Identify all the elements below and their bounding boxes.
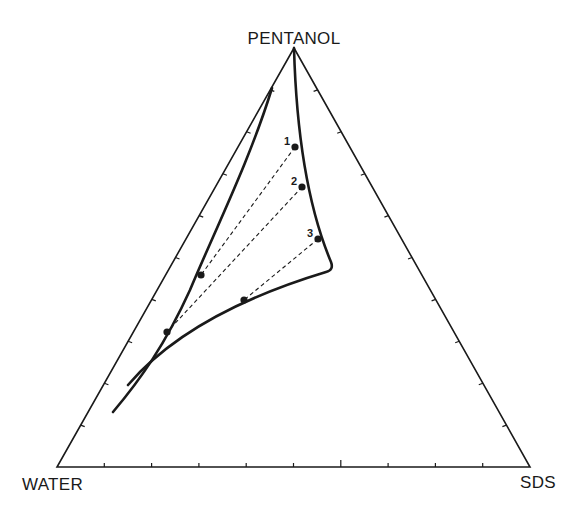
phase-boundaries	[113, 48, 332, 412]
tick-mark	[432, 299, 436, 301]
tie-line-dashes	[244, 239, 318, 300]
data-point	[314, 235, 321, 242]
tick-mark	[337, 132, 341, 134]
tick-mark	[455, 341, 459, 343]
data-point	[291, 143, 298, 150]
tie-line-dashes	[201, 147, 295, 275]
data-point	[240, 296, 247, 303]
triangle-frame	[57, 48, 530, 467]
tie-lines: 123	[163, 135, 321, 336]
single-phase-boundary-left	[113, 88, 272, 412]
tick-mark	[384, 216, 388, 218]
vertex-label-pentanol: PENTANOL	[248, 29, 341, 48]
triangle-outline	[57, 48, 530, 467]
data-point	[298, 183, 305, 190]
tick-mark	[314, 90, 318, 92]
tie-line-2: 2	[163, 175, 305, 336]
vertex-label-sds: SDS	[520, 473, 556, 492]
data-point	[163, 328, 170, 335]
tick-mark	[152, 299, 156, 301]
data-point	[197, 271, 204, 278]
tie-line-label: 2	[291, 175, 297, 187]
single-phase-boundary-right	[128, 48, 332, 385]
tick-mark	[223, 174, 227, 176]
tie-line-dashes	[167, 187, 302, 332]
tick-mark	[361, 174, 365, 176]
tick-mark	[199, 216, 203, 218]
vertex-label-water: WATER	[22, 475, 83, 494]
tick-mark	[128, 341, 132, 343]
tick-mark	[104, 383, 108, 385]
tick-mark	[81, 425, 85, 427]
tie-line-label: 3	[307, 227, 313, 239]
tie-line-3: 3	[240, 227, 321, 304]
tie-line-label: 1	[284, 135, 290, 147]
tick-mark	[247, 132, 251, 134]
tick-mark	[502, 425, 506, 427]
ternary-diagram: 123 PENTANOL WATER SDS	[0, 0, 576, 507]
tick-mark	[408, 258, 412, 260]
tick-mark	[479, 383, 483, 385]
tick-mark	[176, 258, 180, 260]
